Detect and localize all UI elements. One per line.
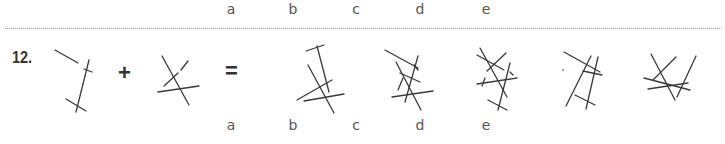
option-e-figure-icon[interactable] <box>644 54 696 100</box>
option-d-figure-icon[interactable] <box>562 52 602 109</box>
option-label-d[interactable]: d <box>410 117 430 133</box>
option-label-a[interactable]: a <box>221 117 241 133</box>
option-labels: a b c d e <box>0 117 725 137</box>
line-figure-1-icon <box>55 50 92 112</box>
option-c-figure-icon[interactable] <box>477 48 517 110</box>
option-label-e[interactable]: e <box>476 117 496 133</box>
option-label-b[interactable]: b <box>283 117 303 133</box>
option-label-c[interactable]: c <box>346 117 366 133</box>
line-figure-2-icon <box>158 56 199 105</box>
option-a-figure-icon[interactable] <box>297 45 344 113</box>
option-b-figure-icon[interactable] <box>385 50 433 110</box>
